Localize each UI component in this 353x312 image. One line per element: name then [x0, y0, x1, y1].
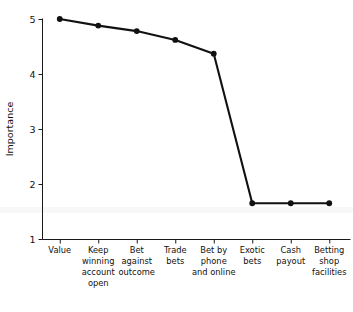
y-tick-label: 5	[29, 14, 35, 25]
data-point-marker	[57, 16, 63, 22]
data-point-marker	[95, 23, 101, 29]
y-tick-label: 4	[29, 69, 35, 80]
x-axis-category-label: outcome	[119, 267, 155, 277]
x-axis-category-label: Betting	[314, 245, 344, 255]
y-tick-label: 2	[29, 179, 35, 190]
importance-line-chart: 12345 ValueKeepwinningaccountopenBetagai…	[0, 0, 353, 312]
x-axis-category-label: phone	[201, 256, 227, 266]
x-axis-category-label: facilities	[312, 267, 346, 277]
x-axis-category-label: bets	[243, 256, 261, 266]
data-point-marker	[326, 200, 332, 206]
x-axis-category-label: Trade	[163, 245, 187, 255]
x-axis-category-label: winning	[82, 256, 114, 266]
x-axis-category-label: against	[121, 256, 152, 266]
x-axis-category-label: Bet by	[200, 245, 227, 255]
x-axis-category-label: Exotic	[240, 245, 266, 255]
data-point-marker	[249, 200, 255, 206]
data-point-marker	[134, 28, 140, 34]
x-axis-category-label: bets	[166, 256, 184, 266]
x-axis-category-label: payout	[276, 256, 306, 266]
y-axis-title: Importance	[4, 102, 15, 157]
x-axis-category-label: open	[88, 278, 109, 288]
x-axis-category-label: Keep	[88, 245, 109, 255]
x-axis-category-label: account	[82, 267, 116, 277]
x-axis-category-label: Value	[48, 245, 71, 255]
x-axis-category-label: shop	[319, 256, 339, 266]
data-point-marker	[288, 200, 294, 206]
chart-canvas: 12345 ValueKeepwinningaccountopenBetagai…	[0, 0, 353, 312]
x-axis-category-label: and online	[192, 267, 236, 277]
data-point-marker	[211, 51, 217, 57]
y-tick-label: 3	[29, 124, 35, 135]
x-axis-category-label: Cash	[281, 245, 301, 255]
y-tick-label: 1	[29, 234, 35, 245]
x-axis-category-label: Bet	[130, 245, 145, 255]
background-scan-band	[0, 207, 353, 213]
data-point-marker	[172, 37, 178, 43]
